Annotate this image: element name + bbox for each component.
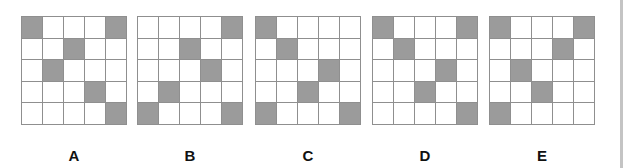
- grid-cell-empty: [298, 39, 319, 61]
- grid-c: [255, 16, 361, 125]
- grid-cell-empty: [415, 60, 436, 82]
- grid-cell-filled: [85, 82, 106, 104]
- grid-cell-empty: [180, 82, 201, 104]
- grid-cell-filled: [138, 103, 159, 125]
- grid-cell-empty: [22, 82, 43, 104]
- grid-cell-empty: [394, 82, 415, 104]
- grid-cell-empty: [553, 60, 574, 82]
- grid-cell-filled: [436, 60, 457, 82]
- grid-d: [372, 16, 478, 125]
- grid-cell-empty: [457, 60, 478, 82]
- grid-cell-empty: [574, 39, 595, 61]
- option-d[interactable]: D: [372, 16, 478, 125]
- grid-cell-empty: [490, 60, 511, 82]
- grid-cell-filled: [43, 60, 64, 82]
- grid-cell-filled: [574, 17, 595, 39]
- grid-cell-empty: [340, 60, 361, 82]
- grid-cell-filled: [22, 17, 43, 39]
- grid-cell-empty: [574, 103, 595, 125]
- grid-cell-empty: [532, 39, 553, 61]
- grid-cell-filled: [511, 60, 532, 82]
- grid-cell-empty: [532, 17, 553, 39]
- grid-cell-empty: [64, 17, 85, 39]
- option-b[interactable]: B: [137, 16, 243, 125]
- option-e[interactable]: E: [489, 16, 595, 125]
- grid-cell-empty: [64, 82, 85, 104]
- option-c[interactable]: C: [255, 16, 361, 125]
- grid-cell-empty: [415, 39, 436, 61]
- grid-cell-empty: [532, 60, 553, 82]
- grid-cell-empty: [138, 39, 159, 61]
- grid-e: [489, 16, 595, 125]
- grid-cell-filled: [159, 82, 180, 104]
- grid-cell-empty: [64, 103, 85, 125]
- grid-cell-empty: [85, 17, 106, 39]
- grid-cell-empty: [436, 39, 457, 61]
- grid-cell-filled: [490, 17, 511, 39]
- grid-cell-empty: [490, 82, 511, 104]
- grid-cell-empty: [298, 103, 319, 125]
- grid-cell-empty: [340, 17, 361, 39]
- grid-cell-empty: [138, 17, 159, 39]
- grid-cell-empty: [22, 103, 43, 125]
- grid-cell-empty: [340, 39, 361, 61]
- grid-cell-empty: [436, 103, 457, 125]
- grid-cell-filled: [457, 103, 478, 125]
- option-a[interactable]: A: [21, 16, 127, 125]
- grid-cell-empty: [574, 60, 595, 82]
- grid-cell-empty: [85, 39, 106, 61]
- grid-cell-empty: [201, 103, 222, 125]
- grid-cell-empty: [298, 60, 319, 82]
- grid-cell-empty: [64, 60, 85, 82]
- grid-cell-empty: [256, 82, 277, 104]
- option-label-a: A: [21, 147, 127, 164]
- grid-cell-empty: [222, 82, 243, 104]
- grid-cell-filled: [319, 60, 340, 82]
- grid-cell-empty: [394, 60, 415, 82]
- grid-cell-empty: [277, 103, 298, 125]
- grid-cell-filled: [222, 103, 243, 125]
- grid-cell-empty: [277, 60, 298, 82]
- grid-cell-filled: [340, 103, 361, 125]
- grid-cell-empty: [532, 103, 553, 125]
- grid-cell-empty: [85, 60, 106, 82]
- grid-cell-empty: [373, 39, 394, 61]
- grid-cell-empty: [43, 82, 64, 104]
- grid-cell-empty: [511, 103, 532, 125]
- grid-cell-empty: [222, 39, 243, 61]
- grid-cell-empty: [553, 103, 574, 125]
- grid-cell-filled: [180, 39, 201, 61]
- grid-cell-empty: [138, 82, 159, 104]
- grid-cell-filled: [277, 39, 298, 61]
- grid-cell-filled: [64, 39, 85, 61]
- grid-cell-empty: [511, 39, 532, 61]
- grid-cell-empty: [340, 82, 361, 104]
- option-label-e: E: [489, 147, 595, 164]
- grid-cell-empty: [277, 17, 298, 39]
- grid-cell-empty: [298, 17, 319, 39]
- grid-cell-filled: [553, 39, 574, 61]
- grid-cell-empty: [415, 17, 436, 39]
- grid-cell-empty: [490, 39, 511, 61]
- grid-cell-empty: [553, 17, 574, 39]
- grid-cell-filled: [106, 103, 127, 125]
- grid-cell-filled: [394, 39, 415, 61]
- grid-cell-empty: [319, 103, 340, 125]
- option-label-b: B: [137, 147, 243, 164]
- grid-cell-empty: [201, 39, 222, 61]
- grid-cell-empty: [180, 60, 201, 82]
- grid-cell-filled: [490, 103, 511, 125]
- grid-cell-empty: [319, 39, 340, 61]
- grid-cell-empty: [159, 103, 180, 125]
- grid-cell-empty: [138, 60, 159, 82]
- grid-cell-empty: [256, 60, 277, 82]
- grid-cell-filled: [106, 17, 127, 39]
- grid-cell-filled: [532, 82, 553, 104]
- grid-cell-filled: [298, 82, 319, 104]
- grid-cell-filled: [457, 17, 478, 39]
- grid-cell-empty: [553, 82, 574, 104]
- grid-cell-filled: [222, 17, 243, 39]
- grid-cell-empty: [319, 82, 340, 104]
- grid-cell-empty: [106, 39, 127, 61]
- grid-cell-empty: [159, 17, 180, 39]
